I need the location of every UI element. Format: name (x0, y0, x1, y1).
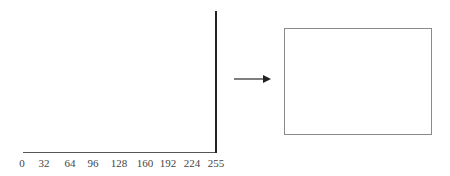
histogram-bar-255 (215, 11, 217, 153)
tick-label-160: 160 (137, 157, 154, 169)
tick-label-64: 64 (65, 157, 76, 169)
histogram: 0 32 64 96 128 160 192 224 255 (0, 0, 230, 176)
x-axis-line (23, 152, 217, 153)
tick-label-0: 0 (19, 157, 25, 169)
tick-label-192: 192 (160, 157, 177, 169)
right-arrow-icon (234, 73, 272, 85)
tick-label-255: 255 (208, 157, 225, 169)
tick-label-96: 96 (88, 157, 99, 169)
tick-label-128: 128 (111, 157, 128, 169)
tick-label-32: 32 (39, 157, 50, 169)
output-image-box (284, 28, 432, 135)
tick-label-224: 224 (184, 157, 201, 169)
